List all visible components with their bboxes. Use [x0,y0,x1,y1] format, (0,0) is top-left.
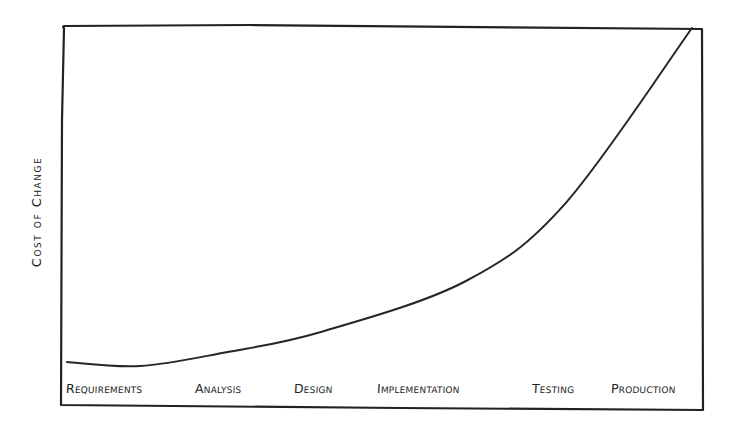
x-axis-label-implementation: Implementation [377,381,461,396]
cost-curve-line [67,28,692,366]
chart-canvas [0,0,738,447]
x-axis-label-analysis: Analysis [195,381,242,396]
x-axis-label-production: Production [611,381,676,396]
x-axis-label-design: Design [294,381,333,396]
x-axis-label-requirements: Requirements [66,381,143,396]
y-axis-label: Cost of Change [29,157,44,267]
x-axis-label-testing: Testing [532,381,575,396]
chart-frame [61,25,703,410]
